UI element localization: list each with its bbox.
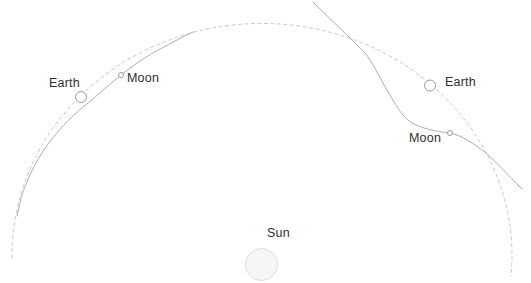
sun-label: Sun: [267, 227, 290, 240]
moon-left-circle: [119, 73, 124, 78]
earth-orbit-dashed-curve: [12, 23, 512, 276]
moon-path-left-curve: [17, 32, 193, 216]
earth-left-circle: [76, 92, 87, 103]
moon-right-label: Moon: [409, 132, 441, 145]
orbital-diagram-canvas: [0, 0, 531, 283]
orbital-diagram: Earth Moon Earth Moon Sun: [0, 0, 531, 283]
moon-right-circle: [448, 131, 453, 136]
moon-path-right-curve: [313, 2, 522, 189]
sun-circle: [246, 249, 278, 281]
moon-left-label: Moon: [127, 72, 159, 85]
earth-left-label: Earth: [49, 77, 80, 90]
earth-right-circle: [425, 80, 436, 91]
earth-right-label: Earth: [445, 76, 476, 89]
